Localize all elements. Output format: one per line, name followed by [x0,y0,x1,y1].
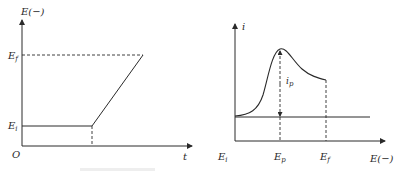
ef-tick-label: Ef [319,151,331,164]
left-ef-label: Ef [7,50,19,63]
left-y-axis-label: E(−) [20,6,45,17]
left-ei-label: Ei [7,120,18,133]
faded-caption [80,168,155,171]
ip-label: ip [286,76,294,88]
ep-tick-label: Ep [273,151,286,164]
linear-sweep-ramp [92,55,143,126]
left-panel-potential-time: E(−) Ef Ei O t [7,6,192,162]
left-x-axis-label: t [183,151,188,162]
right-panel-voltammogram: i ip Ei Ep Ef E(−) [217,21,394,164]
voltammogram-curve [235,49,326,116]
origin-label: O [12,149,20,160]
diagram-canvas: E(−) Ef Ei O t i ip Ei Ep Ef E(−) [0,0,401,172]
ei-tick-label: Ei [217,151,228,164]
right-x-axis-label: E(−) [369,153,394,164]
right-y-axis-label: i [242,21,245,32]
